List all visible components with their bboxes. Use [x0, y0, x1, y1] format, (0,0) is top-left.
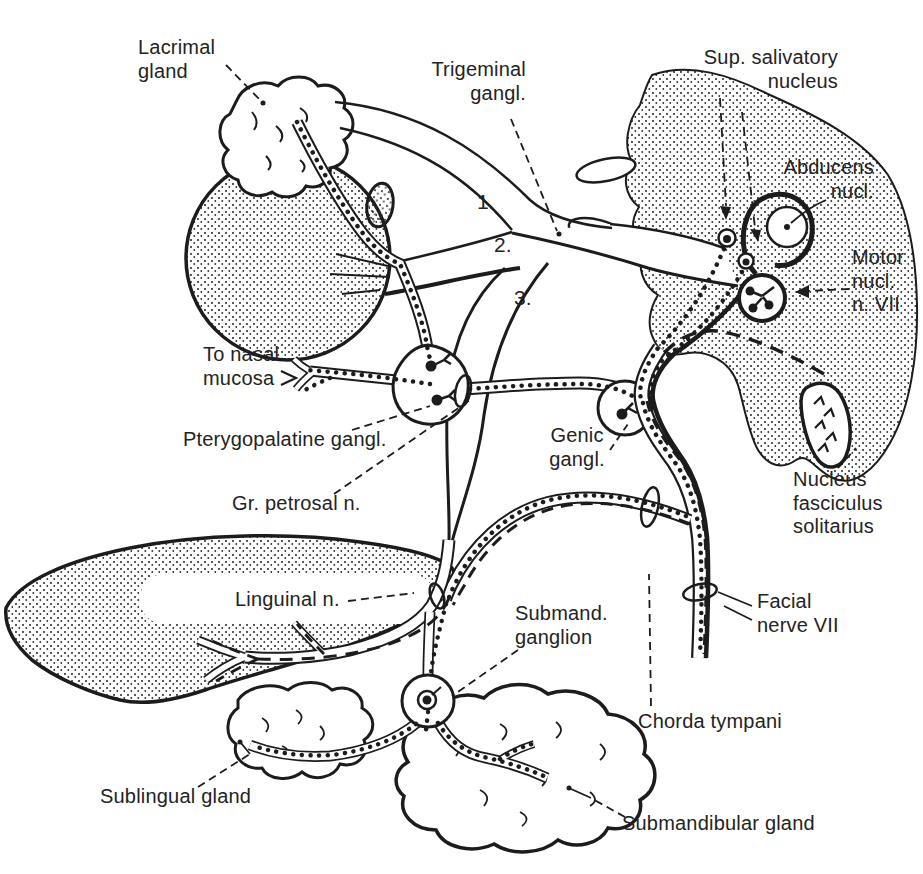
label-abducens-nucleus: Abducens nucl. — [772, 156, 874, 203]
chorda-tympani-nerve — [446, 498, 690, 600]
label-linguinal-n: Linguinal n. — [235, 588, 340, 612]
label-chorda-tympani: Chorda tympani — [638, 710, 782, 734]
label-sup-salivatory-nucleus: Sup. salivatory nucleus — [698, 46, 838, 93]
label-sublingual-gland: Sublingual gland — [100, 785, 251, 809]
motor-nucleus-vii-shape — [739, 275, 785, 321]
label-trigeminal-ganglion: Trigeminal gangl. — [420, 58, 526, 105]
label-branch-1: 1. — [477, 190, 495, 214]
eyeball-tab — [364, 181, 396, 228]
label-geniculate-ganglion: Genic gangl. — [545, 424, 609, 471]
label-nucleus-fasciculus-solitarius: Nucleus fasciculus solitarius — [793, 468, 883, 539]
label-submandibular-gland: Submandibular gland — [622, 812, 815, 836]
label-lacrimal-gland: Lacrimal gland — [138, 36, 215, 83]
label-pterygopalatine-ganglion: Pterygopalatine gangl. — [183, 428, 386, 452]
label-branch-3: 3. — [514, 286, 532, 310]
abducens-nucleus-shape — [767, 207, 807, 247]
label-facial-nerve-vii: Facial nerve VII — [757, 590, 839, 637]
label-gr-petrosal-n: Gr. petrosal n. — [232, 492, 361, 516]
tongue — [6, 536, 455, 703]
anatomical-diagram: Lacrimal gland Trigeminal gangl. Sup. sa… — [0, 0, 923, 874]
label-submandibular-ganglion: Submand. ganglion — [515, 602, 608, 649]
sublingual-gland-shape — [228, 683, 373, 779]
label-motor-nucleus-n-vii: Motor nucl. n. VII — [852, 246, 904, 317]
diagram-artwork — [0, 0, 923, 874]
label-to-nasal-mucosa: To nasal mucosa — [203, 343, 279, 390]
label-branch-2: 2. — [494, 233, 512, 257]
trigeminal-divisions — [335, 102, 612, 542]
